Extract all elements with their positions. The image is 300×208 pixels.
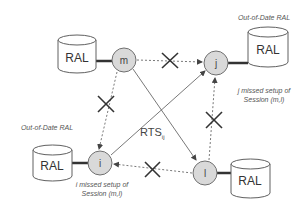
edges <box>99 60 215 173</box>
ral-label: RAL <box>256 43 280 57</box>
rts-label: RTSij <box>140 126 164 140</box>
out-of-date-caption: Out-of-Date RAL <box>21 124 73 131</box>
blocked-markers <box>98 53 222 177</box>
svg-text:m: m <box>120 55 128 66</box>
cross-icon <box>98 96 114 112</box>
database-l: RAL <box>217 159 270 198</box>
svg-text:i: i <box>99 158 101 169</box>
ral-label: RAL <box>65 51 89 65</box>
svg-text:i missed setup of: i missed setup of <box>76 181 130 189</box>
database-j: RAL Out-of-Date RAL <box>228 14 290 67</box>
svg-text:j: j <box>214 58 217 69</box>
note-j-missed: j missed setup of Session (m,l) <box>237 87 292 104</box>
cross-icon <box>145 162 160 177</box>
svg-text:Session (m,l): Session (m,l) <box>82 190 123 198</box>
cross-icon <box>206 112 222 128</box>
svg-text:Session (m,l): Session (m,l) <box>244 96 285 104</box>
node-l: l <box>193 161 217 185</box>
node-i: i <box>88 151 112 175</box>
svg-text:j missed setup of: j missed setup of <box>237 87 292 95</box>
edge-m-l <box>133 69 196 160</box>
diagram-canvas: RTSij RAL RAL Out-of-Date RAL RAL Out-of… <box>0 0 300 208</box>
cross-icon <box>162 53 178 68</box>
ral-label: RAL <box>238 174 262 188</box>
edge-m-i <box>99 72 117 149</box>
svg-text:l: l <box>204 168 206 179</box>
ral-label: RAL <box>40 159 64 173</box>
out-of-date-caption: Out-of-Date RAL <box>238 14 290 21</box>
node-j: j <box>204 51 228 75</box>
edge-i-j-rts <box>111 71 205 155</box>
database-m: RAL <box>58 35 112 73</box>
node-m: m <box>112 48 136 72</box>
note-i-missed: i missed setup of Session (m,l) <box>76 181 130 198</box>
database-i: RAL Out-of-Date RAL <box>21 124 88 181</box>
